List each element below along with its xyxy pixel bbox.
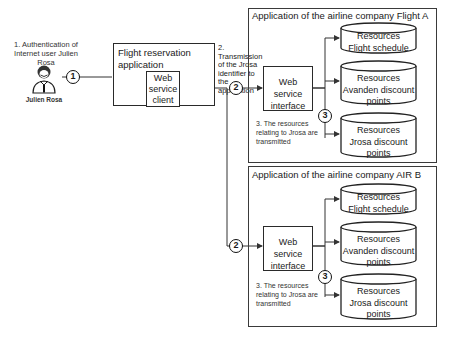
client-app-title: Flight reservation application bbox=[118, 47, 213, 71]
step-2-marker-a: 2 bbox=[229, 81, 243, 95]
airline-a-title: Application of the airline company Fligh… bbox=[252, 10, 428, 21]
airline-b-web-service-interface: Web service interface bbox=[263, 226, 313, 271]
person-icon bbox=[30, 64, 58, 94]
airline-b-step-3-marker: 3 bbox=[318, 270, 332, 284]
airline-a-step-3-label: 3. The resources relating to Jrosa are t… bbox=[256, 119, 320, 146]
step-1-label: 1. Authentication of Internet user Julie… bbox=[8, 40, 84, 67]
step-2-marker-b: 2 bbox=[229, 239, 243, 253]
airline-b-title: Application of the airline company AIR B bbox=[252, 169, 421, 180]
user-name: Julien Rosa bbox=[18, 95, 70, 104]
airline-a-resource-flight-schedule: ResourcesFlight schedule bbox=[340, 22, 417, 54]
airline-b-step-3-label: 3. The resources relating to Jrosa are t… bbox=[256, 281, 320, 308]
step-1-marker: 1 bbox=[66, 70, 80, 84]
airline-b-resource-jrosa-points: ResourcesJrosa discount points bbox=[340, 273, 417, 320]
airline-b-resource-avanden-points: ResourcesAvanden discount points bbox=[340, 221, 417, 266]
airline-a-step-3-marker: 3 bbox=[318, 109, 332, 123]
airline-a-resource-jrosa-points: ResourcesJrosa discount points bbox=[340, 112, 417, 158]
airline-b-resource-flight-schedule: ResourcesFlight schedule bbox=[340, 183, 417, 215]
web-service-client: Web service client bbox=[146, 71, 180, 107]
airline-a-resource-avanden-points: ResourcesAvanden discount points bbox=[340, 60, 417, 105]
airline-a-web-service-interface: Web service interface bbox=[263, 66, 313, 111]
